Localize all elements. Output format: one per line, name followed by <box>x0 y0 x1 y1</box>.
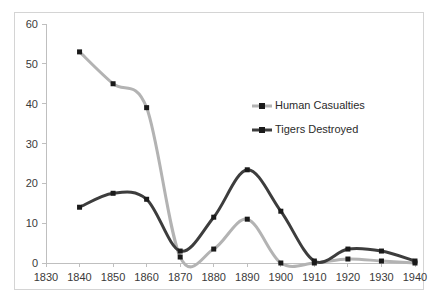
y-tick-label-60: 60 <box>26 18 38 30</box>
data-point-marker[interactable] <box>345 257 350 262</box>
x-tick-label-1830: 1830 <box>34 271 58 283</box>
data-point-marker[interactable] <box>312 259 317 264</box>
y-axis-ticks <box>42 24 46 263</box>
series-human-casualties <box>77 49 417 267</box>
legend-label-human-casualties: Human Casualties <box>275 99 365 111</box>
x-tick-label-1840: 1840 <box>67 271 91 283</box>
y-tick-label-20: 20 <box>26 177 38 189</box>
x-tick-label-1860: 1860 <box>134 271 158 283</box>
data-point-marker[interactable] <box>77 205 82 210</box>
chart-legend: Human Casualties Tigers Destroyed <box>252 99 365 135</box>
data-point-marker[interactable] <box>178 255 183 260</box>
series-tigers-destroyed <box>77 167 417 263</box>
x-tick-label-1880: 1880 <box>201 271 225 283</box>
data-point-marker[interactable] <box>144 197 149 202</box>
x-tick-label-1900: 1900 <box>269 271 293 283</box>
x-tick-label-1920: 1920 <box>336 271 360 283</box>
data-point-marker[interactable] <box>278 261 283 266</box>
y-tick-label-10: 10 <box>26 217 38 229</box>
y-tick-label-0: 0 <box>32 257 38 269</box>
x-tick-label-1910: 1910 <box>302 271 326 283</box>
data-point-marker[interactable] <box>111 191 116 196</box>
data-point-marker[interactable] <box>379 249 384 254</box>
x-tick-label-1890: 1890 <box>235 271 259 283</box>
x-tick-label-1870: 1870 <box>168 271 192 283</box>
legend-item-tigers-destroyed[interactable]: Tigers Destroyed <box>252 123 358 135</box>
series-layer <box>77 49 417 267</box>
data-point-marker[interactable] <box>278 209 283 214</box>
x-tick-label-1940: 1940 <box>403 271 427 283</box>
data-point-marker[interactable] <box>379 259 384 264</box>
x-tick-label-1850: 1850 <box>101 271 125 283</box>
data-point-marker[interactable] <box>111 81 116 86</box>
data-point-marker[interactable] <box>413 259 418 264</box>
legend-label-tigers-destroyed: Tigers Destroyed <box>275 123 358 135</box>
data-point-marker[interactable] <box>211 247 216 252</box>
legend-item-human-casualties[interactable]: Human Casualties <box>252 99 365 111</box>
legend-marker-tigers-destroyed <box>259 127 265 133</box>
series-line <box>80 52 415 267</box>
legend-marker-human-casualties <box>259 103 265 109</box>
data-point-marker[interactable] <box>345 247 350 252</box>
data-point-marker[interactable] <box>144 105 149 110</box>
y-tick-label-30: 30 <box>26 138 38 150</box>
series-line <box>80 170 415 263</box>
data-point-marker[interactable] <box>245 167 250 172</box>
x-axis-ticks <box>46 263 415 267</box>
data-point-marker[interactable] <box>245 217 250 222</box>
y-tick-label-40: 40 <box>26 98 38 110</box>
y-tick-label-50: 50 <box>26 58 38 70</box>
data-point-marker[interactable] <box>211 215 216 220</box>
chart-canvas: 0 10 20 30 40 50 60 1830 1840 1850 1860 … <box>0 0 438 305</box>
data-point-marker[interactable] <box>77 49 82 54</box>
x-tick-label-1930: 1930 <box>369 271 393 283</box>
line-chart: 0 10 20 30 40 50 60 1830 1840 1850 1860 … <box>0 0 438 305</box>
data-point-marker[interactable] <box>178 249 183 254</box>
